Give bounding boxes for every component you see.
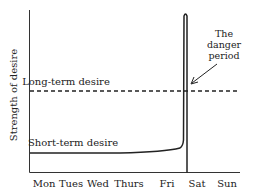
x-tick-mon: Mon [33, 178, 56, 189]
annotation-line-2: danger [207, 39, 242, 50]
x-tick-sun: Sun [217, 178, 237, 189]
desire-chart: Strength of desire Long-term desire Shor… [0, 0, 253, 196]
annotation-arrow-icon [191, 64, 217, 84]
short-term-desire-label: Short-term desire [28, 137, 118, 148]
x-tick-wed: Wed [87, 178, 109, 189]
x-tick-sat: Sat [189, 178, 206, 189]
y-axis-label: Strength of desire [8, 49, 19, 141]
x-tick-fri: Fri [160, 178, 175, 189]
x-tick-tues: Tues [59, 178, 83, 189]
annotation-line-3: period [208, 50, 239, 61]
long-term-desire-label: Long-term desire [22, 76, 110, 87]
short-term-desire-curve [30, 14, 187, 173]
annotation-line-1: The [215, 28, 233, 39]
x-tick-thurs: Thurs [114, 178, 143, 189]
